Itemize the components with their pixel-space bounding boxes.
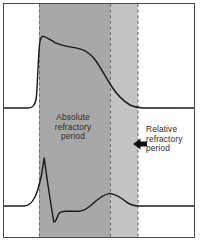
relative-refractory-label-line3: period bbox=[146, 144, 192, 154]
refractory-period-diagram: Absolute refractory period Relative refr… bbox=[0, 0, 200, 249]
relative-refractory-band bbox=[110, 4, 138, 237]
absolute-refractory-label-line3: period bbox=[37, 132, 109, 142]
relative-refractory-label: Relative refractory period bbox=[146, 125, 192, 154]
absolute-refractory-label: Absolute refractory period bbox=[37, 113, 109, 142]
